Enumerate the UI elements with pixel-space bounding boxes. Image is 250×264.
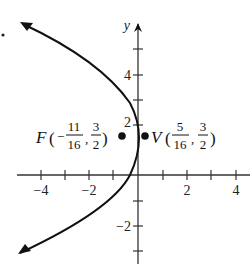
- stray-dot: [1, 33, 4, 36]
- curve-arrow-down-icon: [18, 244, 31, 254]
- focus-label: F ( − 11 16 , 3 2 ): [35, 119, 108, 152]
- parabola-diagram: −4 −2 2 4 4 2 −2 y F ( − 11 16 , 3 2 ) V…: [0, 0, 250, 264]
- x-tick-label: 4: [233, 183, 240, 198]
- y-axis-label: y: [122, 18, 131, 33]
- y-tick-label: −2: [116, 219, 131, 234]
- x-tick-label: −2: [82, 183, 97, 198]
- y-tick-label: 4: [124, 68, 131, 83]
- svg-text:16: 16: [174, 137, 188, 152]
- svg-text:(: (: [49, 129, 55, 148]
- svg-text:16: 16: [68, 137, 82, 152]
- svg-text:): ): [210, 129, 216, 148]
- curve-arrow-up-icon: [20, 22, 33, 31]
- svg-text:−: −: [57, 129, 64, 144]
- svg-text:3: 3: [200, 119, 207, 134]
- x-tick-label: 2: [184, 183, 191, 198]
- vertex-point: [141, 132, 149, 140]
- y-tick-label: 2: [124, 115, 131, 130]
- svg-text:5: 5: [177, 119, 184, 134]
- svg-text:): ): [102, 129, 108, 148]
- svg-text:F: F: [35, 128, 47, 147]
- svg-text:2: 2: [200, 137, 207, 152]
- svg-text:11: 11: [68, 119, 81, 134]
- svg-text:2: 2: [93, 137, 100, 152]
- vertex-label: V ( 5 16 , 3 2 ): [151, 119, 216, 152]
- x-tick-label: −4: [34, 183, 49, 198]
- svg-text:,: ,: [191, 131, 194, 146]
- svg-text:,: ,: [85, 131, 88, 146]
- svg-text:V: V: [151, 128, 164, 147]
- svg-text:3: 3: [93, 119, 100, 134]
- focus-point: [118, 132, 126, 140]
- svg-text:(: (: [165, 129, 171, 148]
